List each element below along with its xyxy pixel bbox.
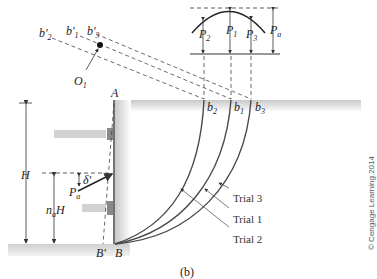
label-b2-prime: b'2 <box>39 26 52 42</box>
label-trial-2: Trial 2 <box>233 233 262 245</box>
label-delta: δ' <box>83 173 92 187</box>
strut-lower <box>82 201 113 215</box>
projection-lines <box>204 56 251 99</box>
figure-caption: (b) <box>180 265 194 279</box>
label-P2: P2 <box>198 27 210 43</box>
label-B: B <box>115 246 123 260</box>
label-O1: O1 <box>74 74 87 90</box>
label-H: H <box>20 168 31 182</box>
label-P3: P3 <box>245 27 257 43</box>
trial-curves <box>115 100 251 244</box>
wall-rotation-line <box>103 103 114 244</box>
trial-3-curve <box>115 100 251 244</box>
copyright-notice: © Cengage Learning 2014 <box>367 155 376 250</box>
label-P1: P1 <box>225 23 237 39</box>
label-B-prime: B' <box>96 246 106 260</box>
label-b1-prime: b'1 <box>66 24 79 40</box>
label-trial-1: Trial 1 <box>233 213 262 225</box>
label-Pa-curve: Pa <box>269 23 281 39</box>
label-trial-3: Trial 3 <box>233 192 263 204</box>
label-A: A <box>110 86 119 100</box>
ground-surface <box>8 100 361 256</box>
center-O1 <box>97 42 103 48</box>
label-Pa-force: Pa <box>68 185 80 201</box>
label-b3-prime: b'3 <box>87 24 100 40</box>
strut-upper <box>54 128 113 140</box>
label-naH: naH <box>46 203 66 219</box>
retaining-wall-diagram: A B B' H naH Pa δ' O1 b'2 b'1 b'3 b2 b1 … <box>0 0 377 279</box>
trial-1-curve <box>115 100 231 244</box>
